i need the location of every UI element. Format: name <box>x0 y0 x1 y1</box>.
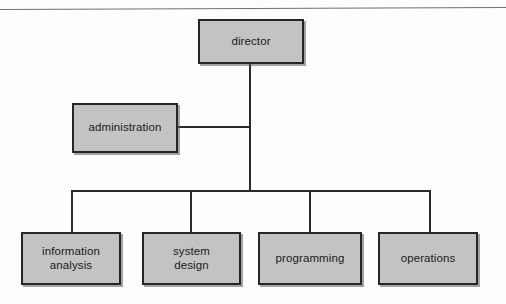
node-programming[interactable]: programming <box>258 232 362 285</box>
connector-director-spine <box>249 64 251 192</box>
node-director[interactable]: director <box>198 19 304 64</box>
connector-drop-operations <box>429 190 431 233</box>
page-top-rule <box>0 7 506 10</box>
node-administration[interactable]: administration <box>72 103 178 153</box>
org-chart-diagram: director administration information anal… <box>0 0 506 304</box>
connector-drop-information-analysis <box>71 190 73 233</box>
node-operations[interactable]: operations <box>378 232 478 285</box>
node-information-analysis[interactable]: information analysis <box>21 232 121 285</box>
connector-drop-programming <box>309 190 311 233</box>
connector-drop-system-design <box>190 190 192 233</box>
node-system-design[interactable]: system design <box>142 232 241 285</box>
connector-administration-branch <box>177 126 250 128</box>
connector-bus <box>71 190 431 192</box>
